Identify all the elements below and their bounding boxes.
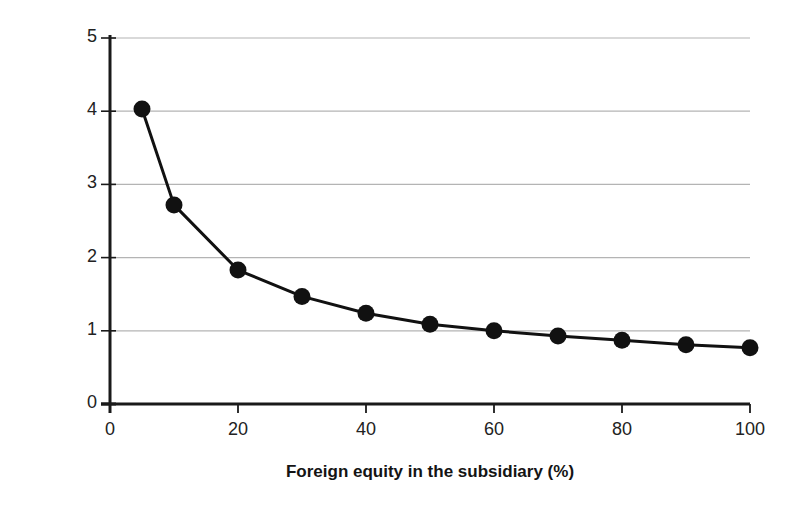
data-point: [134, 101, 151, 118]
y-tick-label-0: 0: [63, 392, 97, 413]
data-point: [678, 336, 695, 353]
data-point: [166, 196, 183, 213]
data-point: [486, 322, 503, 339]
data-point: [742, 339, 759, 356]
x-tick-label-40: 40: [336, 419, 396, 440]
data-point: [550, 327, 567, 344]
y-tick-label-2: 2: [63, 246, 97, 267]
chart-figure: Mortality risk 012345 020406080100 Forei…: [0, 0, 785, 507]
y-tick-label-4: 4: [63, 99, 97, 120]
data-point: [358, 305, 375, 322]
x-tick-label-20: 20: [208, 419, 268, 440]
y-tick-label-3: 3: [63, 172, 97, 193]
x-tick-label-0: 0: [80, 419, 140, 440]
series-line-0: [142, 109, 750, 348]
data-point: [422, 316, 439, 333]
data-point: [230, 262, 247, 279]
data-point: [294, 288, 311, 305]
y-tick-label-1: 1: [63, 319, 97, 340]
x-axis-title-label: Foreign equity in the subsidiary (%): [286, 462, 574, 481]
x-tick-label-100: 100: [720, 419, 780, 440]
data-series-group: [134, 101, 759, 357]
axis-lines-group: [101, 35, 750, 404]
x-tick-label-60: 60: [464, 419, 524, 440]
gridlines-group: [110, 38, 750, 331]
x-axis-title: Foreign equity in the subsidiary (%): [110, 462, 750, 482]
y-tick-label-5: 5: [63, 26, 97, 47]
axis-ticks-group: [101, 38, 750, 413]
x-tick-label-80: 80: [592, 419, 652, 440]
data-point: [614, 332, 631, 349]
